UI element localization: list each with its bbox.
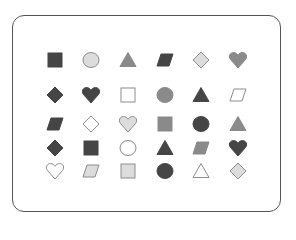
parallelogram-icon <box>45 114 65 134</box>
square-icon <box>45 50 65 70</box>
circle-icon <box>81 50 101 70</box>
square-icon <box>81 138 101 158</box>
parallelogram-icon <box>191 138 211 158</box>
circle-icon <box>191 114 211 134</box>
circle-icon <box>155 85 175 105</box>
heart-icon <box>81 85 101 105</box>
parallelogram-icon <box>81 161 101 181</box>
parallelogram-icon <box>228 85 248 105</box>
diamond-icon <box>45 138 65 158</box>
triangle-icon <box>191 161 211 181</box>
circle-icon <box>155 161 175 181</box>
square-icon <box>155 114 175 134</box>
diamond-icon <box>81 114 101 134</box>
parallelogram-icon <box>155 50 175 70</box>
triangle-icon <box>228 114 248 134</box>
triangle-icon <box>155 138 175 158</box>
square-icon <box>118 85 138 105</box>
heart-icon <box>118 114 138 134</box>
triangle-icon <box>191 85 211 105</box>
triangle-icon <box>118 50 138 70</box>
diamond-icon <box>45 85 65 105</box>
heart-icon <box>228 50 248 70</box>
diamond-icon <box>191 50 211 70</box>
diamond-icon <box>228 161 248 181</box>
square-icon <box>118 161 138 181</box>
heart-icon <box>228 138 248 158</box>
heart-icon <box>45 161 65 181</box>
circle-icon <box>118 138 138 158</box>
